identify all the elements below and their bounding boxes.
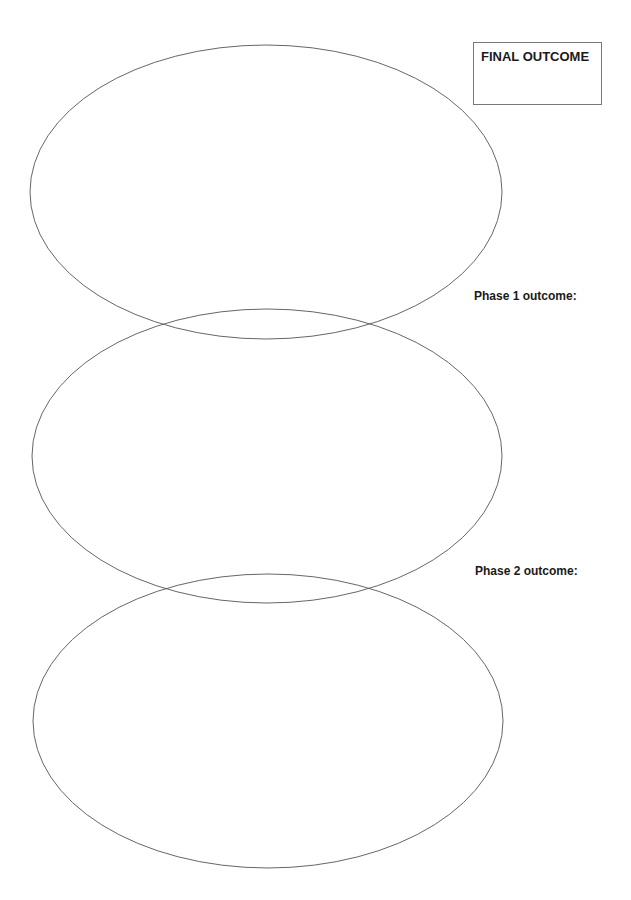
phase-2-ellipse — [33, 574, 503, 868]
phase-1-ellipse — [32, 309, 502, 603]
final-outcome-ellipse — [30, 45, 502, 339]
ellipse-diagram — [0, 0, 631, 900]
final-outcome-box: FINAL OUTCOME — [473, 42, 602, 105]
phase-2-outcome-label: Phase 2 outcome: — [475, 564, 578, 578]
final-outcome-label: FINAL OUTCOME — [481, 49, 589, 64]
phase-1-outcome-label: Phase 1 outcome: — [474, 289, 577, 303]
